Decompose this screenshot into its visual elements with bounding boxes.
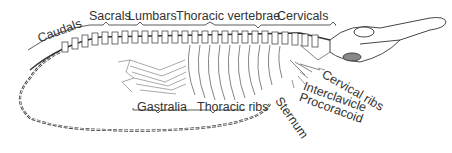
label-thoracic-vertebrae: Thoracic vertebrae [176, 10, 280, 23]
label-cervicals: Cervicals [277, 10, 328, 23]
label-lumbars: Lumbars [128, 10, 177, 23]
label-thoracic-ribs: Thoracic ribs [197, 101, 269, 114]
label-sacrals: Sacrals [89, 10, 131, 23]
label-gastralia: Gastralia [137, 101, 187, 114]
skeleton-diagram: Caudals Sacrals Lumbars Thoracic vertebr… [0, 0, 452, 153]
